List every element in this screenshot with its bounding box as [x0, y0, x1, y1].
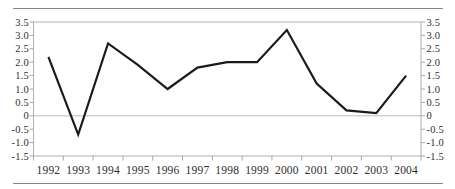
- y-axis-label-right: 3.0: [427, 30, 441, 41]
- x-axis-label: 2000: [275, 164, 299, 176]
- y-axis-label-left: 2.5: [15, 43, 29, 54]
- x-axis-label: 2001: [305, 164, 329, 176]
- x-axis-label: 1999: [245, 164, 269, 176]
- y-axis-label-left: 0.5: [15, 97, 29, 108]
- y-axis-label-left: -1.5: [12, 151, 29, 162]
- y-axis-label-right: 2.0: [427, 57, 441, 68]
- left-axis-ticks: [30, 22, 34, 156]
- x-axis-label: 2004: [394, 164, 418, 176]
- y-axis-label-right: 0.5: [427, 97, 441, 108]
- bottom-horizontal-rule: [13, 183, 443, 184]
- y-axis-label-left: 0: [24, 110, 29, 121]
- chart-page: 3.53.02.52.01.51.00.50-0.5-1.0-1.53.53.0…: [0, 0, 455, 189]
- y-axis-label-right: 1.0: [427, 84, 441, 95]
- y-axis-label-right: -1.0: [427, 137, 444, 148]
- y-axis-label-left: -0.5: [12, 124, 29, 135]
- line-chart: 3.53.02.52.01.51.00.50-0.5-1.0-1.53.53.0…: [0, 0, 455, 189]
- right-axis-labels: 3.53.02.52.01.51.00.50-0.5-1.0-1.5: [427, 17, 444, 162]
- y-axis-label-right: -0.5: [427, 124, 444, 135]
- left-axis-labels: 3.53.02.52.01.51.00.50-0.5-1.0-1.5: [12, 17, 29, 162]
- x-axis-label: 1997: [186, 164, 210, 176]
- y-axis-label-right: -1.5: [427, 151, 444, 162]
- x-axis-label: 1993: [66, 164, 90, 176]
- y-axis-label-right: 1.5: [427, 70, 441, 81]
- y-axis-label-left: 2.0: [15, 57, 29, 68]
- x-axis-ticks: [34, 156, 422, 161]
- y-axis-label-left: 3.0: [15, 30, 29, 41]
- x-axis-label: 1992: [36, 164, 60, 176]
- x-axis-label: 2003: [364, 164, 388, 176]
- y-axis-label-right: 0: [427, 110, 432, 121]
- x-axis-label: 1996: [156, 164, 180, 176]
- y-axis-label-left: 1.5: [15, 70, 29, 81]
- chart-svg: 3.53.02.52.01.51.00.50-0.5-1.0-1.53.53.0…: [0, 0, 455, 189]
- x-axis-label: 1994: [96, 164, 120, 176]
- y-axis-label-left: -1.0: [12, 137, 29, 148]
- data-line: [48, 30, 406, 135]
- y-axis-label-right: 2.5: [427, 43, 441, 54]
- x-axis-labels: 1992199319941995199619971998199920002001…: [36, 164, 418, 176]
- x-axis-label: 2002: [335, 164, 359, 176]
- right-axis-ticks: [421, 22, 425, 156]
- y-axis-label-right: 3.5: [427, 17, 441, 28]
- plot-frame: [34, 22, 422, 156]
- x-axis-label: 1995: [126, 164, 150, 176]
- y-axis-label-left: 3.5: [15, 17, 29, 28]
- y-axis-label-left: 1.0: [15, 84, 29, 95]
- x-axis-label: 1998: [215, 164, 239, 176]
